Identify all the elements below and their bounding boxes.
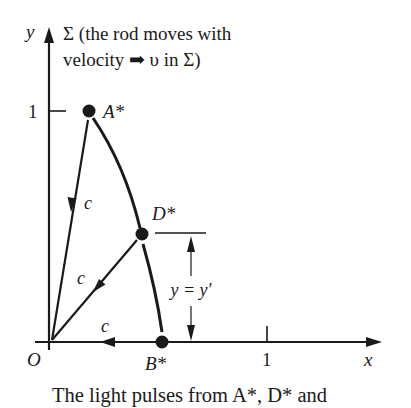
x-tick-label: 1 bbox=[262, 349, 272, 370]
caption: The light pulses from A*, D* and bbox=[52, 384, 327, 407]
dimension-label: y = y′ bbox=[168, 280, 212, 300]
x-axis-arrowhead-icon bbox=[366, 337, 382, 347]
dimension-up-arrow-icon bbox=[187, 236, 195, 252]
relativity-rod-diagram: Σ (the rod moves with velocity ➡ υ in Σ)… bbox=[0, 0, 411, 408]
title-line-1: Σ (the rod moves with bbox=[63, 23, 232, 45]
dimension-down-arrow-icon bbox=[187, 325, 195, 341]
origin-label: O bbox=[27, 349, 41, 370]
ray-a-speed-label: c bbox=[84, 193, 92, 213]
ray-b-speed-label: c bbox=[101, 316, 109, 336]
ray-a-to-origin bbox=[52, 120, 88, 340]
rod-curve bbox=[93, 118, 162, 332]
y-axis-arrowhead-icon bbox=[44, 27, 54, 43]
y-axis bbox=[44, 27, 66, 350]
y-tick-label: 1 bbox=[28, 101, 38, 122]
point-b-label: B* bbox=[145, 353, 167, 374]
title-line-2: velocity ➡ υ in Σ) bbox=[63, 49, 201, 71]
x-axis bbox=[35, 326, 382, 347]
ray-b-arrowhead-icon bbox=[100, 337, 115, 347]
point-a bbox=[83, 105, 96, 118]
y-axis-label: y bbox=[24, 21, 35, 42]
point-a-label: A* bbox=[101, 101, 125, 122]
point-b bbox=[156, 336, 169, 349]
ray-d-speed-label: c bbox=[77, 268, 85, 288]
point-d bbox=[136, 228, 149, 241]
x-axis-label: x bbox=[363, 349, 373, 370]
point-d-label: D* bbox=[151, 203, 176, 224]
